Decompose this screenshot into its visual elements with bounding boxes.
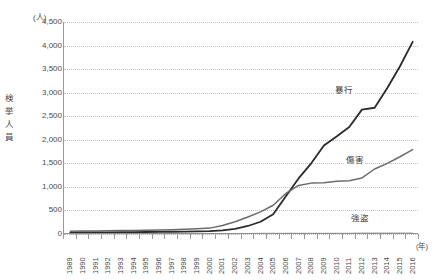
x-tick-label: 2004 xyxy=(256,240,265,274)
x-tick-mark xyxy=(164,234,165,239)
chart-container: 検挙人員 (人) 4,5004,0003,5003,0002,5002,0001… xyxy=(0,0,438,280)
x-tick-mark xyxy=(76,234,77,239)
x-tick-mark xyxy=(279,234,280,239)
x-tick-mark xyxy=(393,234,394,239)
x-tick-mark xyxy=(253,234,254,239)
x-tick-label: 2012 xyxy=(357,240,366,274)
x-tick-mark xyxy=(342,234,343,239)
y-tick-label: 2,500 xyxy=(14,111,62,120)
y-tick-label: 0 xyxy=(14,229,62,238)
x-tick-label: 1990 xyxy=(78,240,87,274)
x-tick-label: 2011 xyxy=(344,240,353,274)
x-tick-label: 2009 xyxy=(319,240,328,274)
x-tick-mark xyxy=(126,234,127,239)
series-lines xyxy=(64,22,419,234)
x-tick-label: 2005 xyxy=(268,240,277,274)
x-tick-mark xyxy=(190,234,191,239)
x-tick-mark xyxy=(215,234,216,239)
x-tick-label: 1991 xyxy=(91,240,100,274)
x-tick-mark xyxy=(202,234,203,239)
y-tick-label: 3,000 xyxy=(14,88,62,97)
y-tick-label: 4,000 xyxy=(14,41,62,50)
x-tick-label: 2008 xyxy=(306,240,315,274)
x-tick-mark xyxy=(317,234,318,239)
x-tick-label: 1993 xyxy=(116,240,125,274)
series-label-goto: 強盗 xyxy=(350,211,370,223)
x-tick-mark xyxy=(114,234,115,239)
plot-area xyxy=(63,22,418,234)
series-label-bouko: 暴行 xyxy=(334,83,354,95)
x-tick-mark xyxy=(88,234,89,239)
x-tick-mark xyxy=(291,234,292,239)
y-tick-label: 1,000 xyxy=(14,182,62,191)
x-tick-label: 1994 xyxy=(129,240,138,274)
x-tick-label: 2003 xyxy=(243,240,252,274)
x-tick-mark xyxy=(329,234,330,239)
x-tick-label: 1995 xyxy=(141,240,150,274)
x-tick-mark xyxy=(266,234,267,239)
x-tick-mark xyxy=(228,234,229,239)
x-tick-mark xyxy=(304,234,305,239)
x-tick-label: 2000 xyxy=(205,240,214,274)
x-tick-mark xyxy=(241,234,242,239)
series-label-shogai: 傷害 xyxy=(345,153,365,165)
x-tick-label: 1997 xyxy=(167,240,176,274)
x-tick-mark xyxy=(101,234,102,239)
x-tick-label: 1996 xyxy=(154,240,163,274)
x-tick-mark xyxy=(418,234,419,239)
x-tick-label: 1992 xyxy=(103,240,112,274)
x-axis-unit-label: (年) xyxy=(416,240,428,251)
x-tick-label: 2007 xyxy=(294,240,303,274)
y-tick-label: 1,500 xyxy=(14,158,62,167)
x-tick-label: 2006 xyxy=(281,240,290,274)
x-tick-mark xyxy=(380,234,381,239)
x-axis-tick-labels: 1989199019911992199319941995199619971998… xyxy=(63,240,418,278)
x-tick-label: 2001 xyxy=(217,240,226,274)
x-tick-label: 2013 xyxy=(370,240,379,274)
x-tick-label: 2015 xyxy=(395,240,404,274)
y-tick-label: 2,000 xyxy=(14,135,62,144)
x-tick-label: 2010 xyxy=(332,240,341,274)
y-tick-label: 4,500 xyxy=(14,17,62,26)
x-tick-mark xyxy=(139,234,140,239)
x-tick-mark xyxy=(177,234,178,239)
x-tick-mark xyxy=(405,234,406,239)
x-tick-mark xyxy=(152,234,153,239)
x-tick-mark xyxy=(367,234,368,239)
x-tick-label: 2002 xyxy=(230,240,239,274)
series-line-暴行 xyxy=(70,42,412,233)
y-tick-label: 500 xyxy=(14,205,62,214)
y-tick-label: 3,500 xyxy=(14,64,62,73)
x-tick-mark xyxy=(355,234,356,239)
y-axis-tick-labels: 4,5004,0003,5003,0002,5002,0001,5001,000… xyxy=(10,0,62,280)
x-tick-label: 2014 xyxy=(382,240,391,274)
x-tick-label: 1989 xyxy=(65,240,74,274)
x-tick-label: 1998 xyxy=(179,240,188,274)
x-tick-mark xyxy=(63,234,64,239)
x-tick-label: 1999 xyxy=(192,240,201,274)
